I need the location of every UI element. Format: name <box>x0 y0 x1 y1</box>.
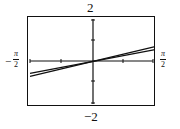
x-min-numerator: π <box>13 50 19 60</box>
x-max-numerator: π <box>160 50 166 60</box>
y-min-label: −2 <box>84 110 98 123</box>
y-max-label: 2 <box>87 1 94 14</box>
x-min-denominator: 2 <box>13 60 19 69</box>
x-min-sign: − <box>5 56 11 67</box>
x-min-label: π 2 <box>13 50 19 69</box>
x-max-denominator: 2 <box>160 60 166 69</box>
x-max-label: π 2 <box>160 50 166 69</box>
